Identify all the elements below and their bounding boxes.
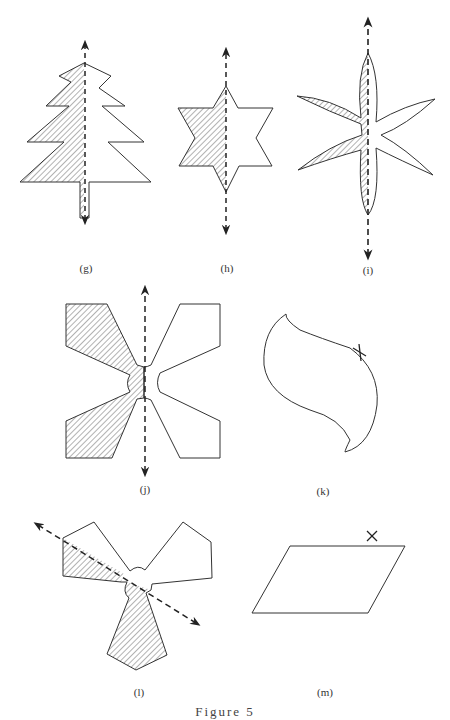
star-left-half-shaded: [178, 86, 226, 192]
blob-outline: [264, 314, 377, 452]
flower-left-half-shaded: [297, 53, 368, 215]
panel-j-xshape: [66, 290, 220, 472]
panel-label-h: (h): [221, 262, 234, 274]
x-right-outline: [144, 304, 220, 458]
figure-caption: Figure 5: [195, 704, 255, 720]
symmetry-axis: [38, 525, 196, 623]
panel-g-tree: [20, 45, 151, 220]
panel-label-k: (k): [317, 485, 330, 497]
cross-marker: [367, 531, 377, 541]
panel-l-propeller: [38, 522, 212, 670]
x-left-half-shaded: [66, 304, 144, 458]
panel-label-l: (l): [134, 686, 144, 698]
panel-label-j: (j): [140, 483, 150, 495]
panel-label-m: (m): [317, 686, 333, 698]
panel-i-flower: [297, 22, 435, 255]
tree-left-half-shaded: [20, 63, 84, 218]
panel-label-g: (g): [80, 262, 93, 274]
propeller-shaded-bottom-blade: [107, 582, 167, 670]
panel-m-parallelogram: [252, 531, 405, 613]
panel-label-i: (i): [363, 264, 373, 276]
panel-h-star: [178, 52, 273, 230]
parallelogram-outline: [252, 546, 405, 613]
panel-k-blob: [264, 314, 377, 452]
